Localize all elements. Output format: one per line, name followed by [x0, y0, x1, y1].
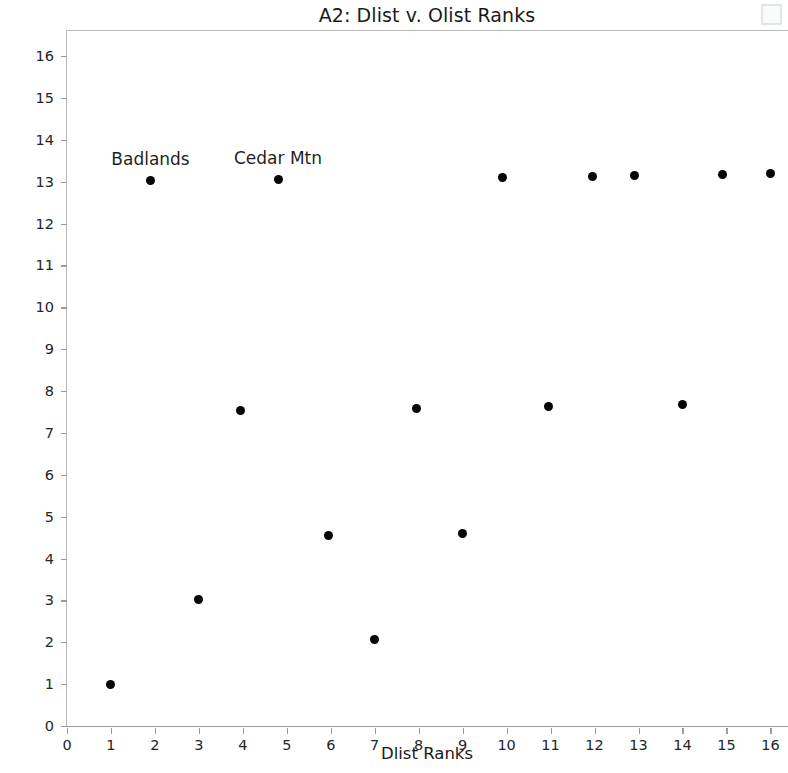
y-axis-tick-label: 2 [45, 634, 54, 650]
x-axis-tick-mark [331, 728, 332, 734]
y-axis-tick-mark [61, 391, 67, 392]
y-axis-tick-label: 12 [36, 216, 54, 232]
y-axis-tick-label: 13 [36, 174, 54, 190]
y-axis-tick-mark [61, 349, 67, 350]
point-annotation-label: Cedar Mtn [234, 148, 322, 168]
y-axis-tick-mark [61, 559, 67, 560]
y-axis-tick-mark [61, 182, 67, 183]
x-axis-tick-mark [507, 728, 508, 734]
x-axis-tick-mark [595, 728, 596, 734]
data-point [766, 169, 775, 178]
x-axis-tick-mark [551, 728, 552, 734]
x-axis-tick-mark [375, 728, 376, 734]
y-axis-tick-mark [61, 56, 67, 57]
x-axis-tick-mark [243, 728, 244, 734]
data-point [146, 176, 155, 185]
data-point [324, 531, 333, 540]
y-axis-tick-label: 15 [36, 90, 54, 106]
y-axis-tick-label: 4 [45, 551, 54, 567]
x-axis-tick-mark [111, 728, 112, 734]
y-axis-tick-mark [61, 517, 67, 518]
x-axis-tick-mark [287, 728, 288, 734]
chart-title: A2: Dlist v. Olist Ranks [66, 4, 788, 26]
y-axis-tick-label: 8 [45, 383, 54, 399]
x-axis-title: Dlist Ranks [66, 744, 788, 763]
y-axis-tick-mark [61, 726, 67, 727]
x-axis-tick-mark [199, 728, 200, 734]
data-point [588, 172, 597, 181]
y-axis-tick-label: 0 [45, 718, 54, 734]
y-axis-tick-label: 1 [45, 676, 54, 692]
y-axis-tick-label: 14 [36, 132, 54, 148]
data-point [274, 175, 283, 184]
y-axis-tick-mark [61, 642, 67, 643]
y-axis-tick-mark [61, 307, 67, 308]
data-point [718, 170, 727, 179]
y-axis-tick-label: 16 [36, 48, 54, 64]
y-axis-tick-label: 5 [45, 509, 54, 525]
y-axis-tick-label: 10 [36, 299, 54, 315]
data-point [412, 404, 421, 413]
x-axis-tick-mark [726, 728, 727, 734]
y-axis-tick-label: 9 [45, 341, 54, 357]
y-axis-tick-mark [61, 140, 67, 141]
y-axis-tick-mark [61, 475, 67, 476]
x-axis-tick-mark [463, 728, 464, 734]
x-axis-tick-mark [67, 728, 68, 734]
scatter-plot-figure: A2: Dlist v. Olist Ranks BadlandsCedar M… [0, 0, 788, 773]
y-axis-tick-mark [61, 433, 67, 434]
y-axis-tick-mark [61, 224, 67, 225]
data-point [106, 680, 115, 689]
y-axis-tick-label: 6 [45, 467, 54, 483]
x-axis-tick-mark [682, 728, 683, 734]
y-axis-tick-label: 11 [36, 257, 54, 273]
data-point [194, 595, 203, 604]
data-point [370, 635, 379, 644]
data-point [498, 173, 507, 182]
y-axis-tick-label: 7 [45, 425, 54, 441]
point-annotation-label: Badlands [111, 149, 189, 169]
y-axis-tick-mark [61, 600, 67, 601]
legend-placeholder-box [761, 4, 782, 25]
data-point [544, 402, 553, 411]
plot-area: BadlandsCedar Mtn 0123456789101112131415… [66, 30, 788, 727]
y-axis-tick-mark [61, 265, 67, 266]
data-point [458, 529, 467, 538]
x-axis-tick-mark [155, 728, 156, 734]
data-points-layer: BadlandsCedar Mtn [67, 31, 788, 726]
x-axis-tick-mark [770, 728, 771, 734]
data-point [630, 171, 639, 180]
x-axis-tick-mark [419, 728, 420, 734]
y-axis-tick-label: 3 [45, 592, 54, 608]
x-axis-tick-mark [639, 728, 640, 734]
y-axis-tick-mark [61, 684, 67, 685]
data-point [236, 406, 245, 415]
data-point [678, 400, 687, 409]
y-axis-tick-mark [61, 98, 67, 99]
